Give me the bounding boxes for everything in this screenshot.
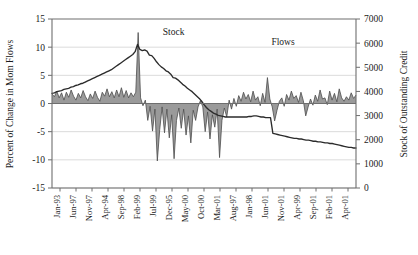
stock-line-series [52,44,356,148]
right-tick-label: 6000 [364,39,383,49]
x-tick-label: Feb-99 [132,195,142,219]
right-axis-tick-labels: 70006000500040003000200010000 [356,14,383,193]
x-tick-label: Apr-99 [292,195,302,220]
x-tick-label: Aug-97 [228,194,238,221]
stock-line [52,44,356,148]
right-axis-title: Stock of Outstanding Credit [399,50,409,157]
flows-outline [52,33,356,161]
x-tick-label: Jan-98 [244,195,254,218]
series-annotation: Flows [271,37,295,47]
series-annotations: StockFlows [163,27,295,48]
left-axis-tick-labels: 151050-5-10-15 [32,14,52,193]
left-tick-label: -10 [32,155,45,165]
left-tick-label: 0 [40,99,45,109]
x-tick-label: Apr-94 [100,194,110,219]
right-tick-label: 4000 [364,87,383,97]
axes [52,19,356,188]
left-tick-label: 10 [36,43,46,53]
left-tick-label: -5 [37,127,45,137]
x-tick-label: Apr-01 [340,195,350,220]
left-tick-label: -15 [32,183,45,193]
x-tick-label: Mar-01 [212,195,222,221]
x-tick-label: Sep-98 [116,195,126,219]
right-tick-label: 3000 [364,111,383,121]
right-tick-label: 5000 [364,63,383,73]
right-tick-label: 0 [364,183,369,193]
x-axis-tick-labels: Jan-93Jun-97Nov-97Apr-94Sep-98Feb-99Jul-… [52,188,350,222]
dual-axis-chart: 151050-5-10-15 7000600050004000300020001… [0,0,418,255]
x-tick-label: Dec-95 [164,195,174,220]
left-axis-title: Percent of Change in Mom Flows [5,39,15,168]
x-tick-label: Jul-99 [148,195,158,216]
x-tick-label: Feb-01 [324,195,334,219]
x-tick-label: Jun-01 [260,195,270,218]
right-tick-label: 1000 [364,159,383,169]
x-tick-label: Jan-93 [52,195,62,218]
left-tick-label: 5 [40,71,45,81]
series-annotation: Stock [163,27,185,37]
x-tick-label: Nov-97 [84,194,94,221]
x-tick-label: Oct-00 [196,195,206,219]
left-tick-label: 15 [36,14,46,24]
x-tick-label: Nov-01 [276,195,286,221]
chart-container: 151050-5-10-15 7000600050004000300020001… [0,0,418,255]
right-tick-label: 7000 [364,14,383,24]
x-tick-label: May-00 [180,195,190,222]
x-tick-label: Sep-01 [308,195,318,219]
x-tick-label: Jun-97 [68,194,78,218]
flows-area-series [52,33,356,161]
right-tick-label: 2000 [364,135,383,145]
